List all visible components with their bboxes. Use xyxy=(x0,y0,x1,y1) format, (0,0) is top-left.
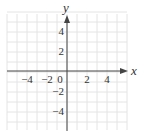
y-tick-label: −2 xyxy=(52,85,64,97)
y-axis-label: y xyxy=(61,0,69,15)
x-tick-label: 0 xyxy=(57,73,63,85)
y-tick-label: 2 xyxy=(59,45,65,57)
y-axis-arrow-icon xyxy=(64,15,70,23)
x-tick-label: 4 xyxy=(104,73,110,85)
x-tick-label: 2 xyxy=(84,73,90,85)
x-tick-label: −4 xyxy=(21,73,33,85)
y-tick-label: 4 xyxy=(59,25,65,37)
x-axis-label: x xyxy=(130,63,137,78)
x-tick-label: −2 xyxy=(41,73,53,85)
coordinate-plane: x y −4−2024 42−2−4 xyxy=(0,0,151,140)
y-tick-label: −4 xyxy=(52,105,64,117)
